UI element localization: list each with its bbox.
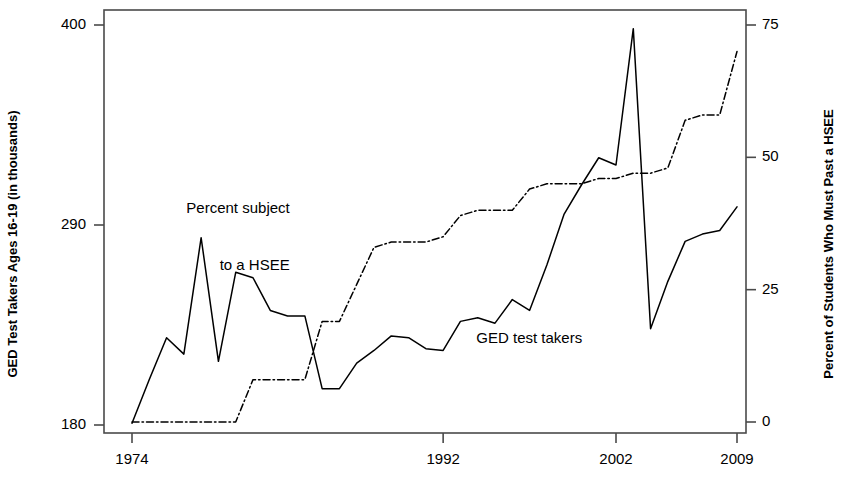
- x-tick-label-2009: 2009: [697, 450, 777, 467]
- annotation-ged-test-takers: GED test takers: [476, 328, 582, 347]
- y-tick-label-left-290: 290: [30, 215, 86, 232]
- annotation-percent-subject-hsee: Percent subject to a HSEE: [186, 160, 289, 312]
- y-tick-label-right-50: 50: [762, 147, 812, 164]
- x-tick-label-1992: 1992: [403, 450, 483, 467]
- y-tick-label-left-400: 400: [30, 15, 86, 32]
- annotation-hsee-line1: Percent subject: [186, 198, 289, 217]
- chart-figure: GED Test Takers Ages 16-19 (in thousands…: [0, 0, 842, 488]
- annotation-hsee-line2: to a HSEE: [186, 255, 289, 274]
- y-tick-label-right-25: 25: [762, 280, 812, 297]
- y-tick-label-right-0: 0: [762, 412, 812, 429]
- y-tick-label-left-180: 180: [30, 415, 86, 432]
- x-tick-label-1974: 1974: [92, 450, 172, 467]
- x-tick-label-2002: 2002: [576, 450, 656, 467]
- y-tick-label-right-75: 75: [762, 15, 812, 32]
- plot-area: [0, 0, 842, 488]
